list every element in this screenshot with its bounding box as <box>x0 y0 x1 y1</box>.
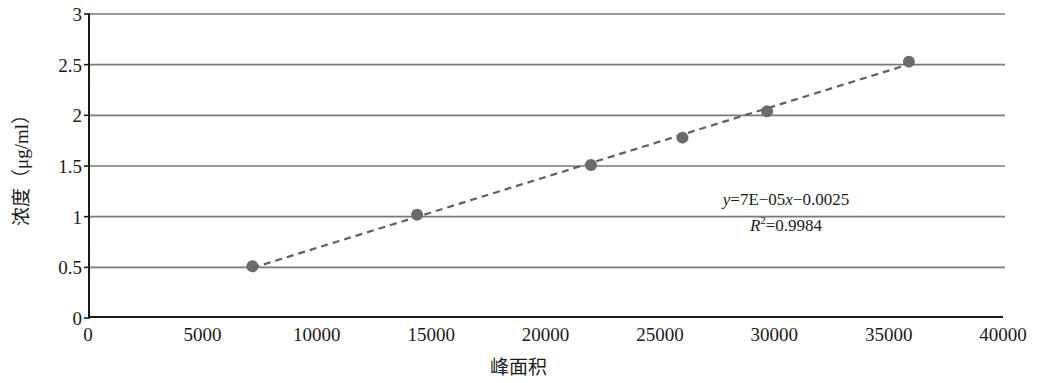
x-axis-title-text: 峰面积 <box>490 357 547 378</box>
data-point-marker <box>761 105 773 117</box>
x-axis-tick-label: 0 <box>83 324 93 347</box>
r-symbol: R <box>750 215 760 234</box>
data-point-marker <box>676 132 688 144</box>
y-axis-title-text: 浓度（μg/ml） <box>7 104 34 225</box>
x-axis-tick-label: 15000 <box>407 324 455 347</box>
scatter-chart: 浓度（μg/ml） 00.511.522.53 0500010000150002… <box>0 0 1037 383</box>
x-axis-tick-labels: 0500010000150002000025000300003500040000 <box>0 324 1037 354</box>
r-squared-line: R2=0.9984 <box>698 213 874 238</box>
equation-line: y=7E−05x−0.0025 <box>698 188 874 213</box>
y-axis-tick-label: 2 <box>38 106 82 125</box>
x-axis-title: 峰面积 <box>0 352 1037 379</box>
regression-equation-annotation: y=7E−05x−0.0025 R2=0.9984 <box>698 188 874 238</box>
data-point-marker <box>246 260 258 272</box>
equation-body: =7E−05 <box>730 190 785 209</box>
data-point-marker <box>903 56 915 68</box>
data-point-marker <box>585 159 597 171</box>
equation-tail: −0.0025 <box>793 190 849 209</box>
y-axis-tick-label: 3 <box>38 5 82 24</box>
x-axis-tick-label: 25000 <box>636 324 684 347</box>
x-axis-tick-label: 20000 <box>522 324 570 347</box>
plot-svg <box>90 14 1005 318</box>
y-axis-tick-label: 1 <box>38 207 82 226</box>
x-axis-tick-label: 35000 <box>865 324 913 347</box>
x-axis-tick-label: 10000 <box>293 324 341 347</box>
y-axis-tick-label: 1.5 <box>38 157 82 176</box>
equation-x-symbol: x <box>785 190 793 209</box>
r-value: =0.9984 <box>766 215 822 234</box>
data-point-marker <box>411 209 423 221</box>
x-axis-tick-label: 30000 <box>751 324 799 347</box>
y-axis-tick-label: 2.5 <box>38 55 82 74</box>
x-axis-tick-label: 5000 <box>183 324 221 347</box>
y-axis-tick-label: 0.5 <box>38 258 82 277</box>
plot-area <box>88 14 1003 318</box>
x-axis-tick-label: 40000 <box>979 324 1027 347</box>
